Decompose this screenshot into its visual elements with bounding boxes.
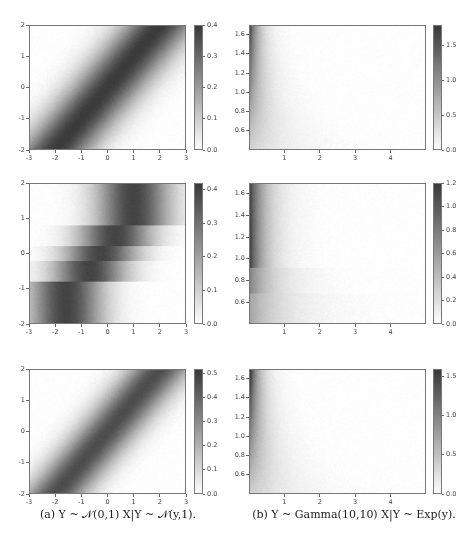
colorbar-tick-label: 0.2 <box>207 442 217 449</box>
colorbar-tick-label: 0.8 <box>446 227 456 234</box>
x-tick-label: 2 <box>152 155 168 162</box>
x-tick-mark <box>284 150 285 153</box>
colorbar-tick-label: 0.3 <box>207 53 217 60</box>
y-tick-label: 0.6 <box>225 471 245 478</box>
y-tick-mark <box>26 324 29 325</box>
y-tick-mark <box>26 494 29 495</box>
colorbar-tick-label: 0.5 <box>207 370 217 377</box>
colorbar-tick-mark <box>203 445 205 446</box>
x-tick-label: 2 <box>312 329 328 336</box>
x-tick-label: 2 <box>152 329 168 336</box>
y-tick-label: 1.0 <box>225 255 245 262</box>
x-tick-mark <box>107 494 108 497</box>
y-tick-label: 0.6 <box>225 127 245 134</box>
x-tick-label: 2 <box>312 155 328 162</box>
colorbar-tick-mark <box>442 454 444 455</box>
y-tick-label: 2 <box>5 22 25 29</box>
y-tick-mark <box>246 474 249 475</box>
colorbar-tick-mark <box>203 373 205 374</box>
colorbar-tick-mark <box>442 183 444 184</box>
y-tick-mark <box>26 183 29 184</box>
x-tick-label: 1 <box>276 155 292 162</box>
y-tick-mark <box>26 288 29 289</box>
x-tick-mark <box>133 324 134 327</box>
x-tick-mark <box>284 324 285 327</box>
x-tick-label: 0 <box>100 499 116 506</box>
y-tick-mark <box>26 87 29 88</box>
x-tick-label: -1 <box>73 499 89 506</box>
colorbar-tick-label: 0.4 <box>207 394 217 401</box>
heatmap-canvas <box>250 184 425 323</box>
colorbar-a3 <box>194 369 203 494</box>
x-tick-mark <box>55 324 56 327</box>
x-tick-mark <box>390 150 391 153</box>
x-tick-label: -2 <box>47 155 63 162</box>
colorbar-tick-label: 0.0 <box>207 321 217 328</box>
y-tick-mark <box>246 397 249 398</box>
heatmap-canvas <box>30 370 185 493</box>
y-tick-label: 1.4 <box>225 50 245 57</box>
x-tick-mark <box>159 324 160 327</box>
heatmap-canvas <box>250 26 425 149</box>
y-tick-label: -1 <box>5 285 25 292</box>
y-tick-mark <box>246 455 249 456</box>
colorbar-tick-label: 0.1 <box>207 466 217 473</box>
colorbar-tick-mark <box>203 189 205 190</box>
colorbar-tick-mark <box>203 290 205 291</box>
y-tick-label: 1.0 <box>225 433 245 440</box>
x-tick-label: -2 <box>47 499 63 506</box>
colorbar-tick-mark <box>442 150 444 151</box>
y-tick-mark <box>246 34 249 35</box>
heatmap-b3 <box>249 369 426 494</box>
y-tick-label: 2 <box>5 180 25 187</box>
y-tick-mark <box>26 253 29 254</box>
colorbar-tick-mark <box>442 415 444 416</box>
y-tick-mark <box>246 378 249 379</box>
colorbar-tick-label: 0.5 <box>446 112 456 119</box>
colorbar-tick-mark <box>442 324 444 325</box>
y-tick-label: 1 <box>5 215 25 222</box>
colorbar-tick-label: 0.2 <box>207 253 217 260</box>
x-tick-mark <box>355 324 356 327</box>
colorbar-tick-mark <box>442 253 444 254</box>
colorbar-tick-label: 0.0 <box>207 491 217 498</box>
x-tick-label: -2 <box>47 329 63 336</box>
x-tick-mark <box>319 494 320 497</box>
colorbar-tick-label: 0.4 <box>207 22 217 29</box>
y-tick-label: 0 <box>5 84 25 91</box>
x-tick-mark <box>186 324 187 327</box>
x-tick-label: 4 <box>383 155 399 162</box>
colorbar-tick-label: 0.0 <box>207 147 217 154</box>
colorbar-tick-mark <box>442 376 444 377</box>
colorbar-tick-label: 1.0 <box>446 412 456 419</box>
x-tick-label: 0 <box>100 329 116 336</box>
x-tick-label: 3 <box>347 499 363 506</box>
y-tick-label: 1.2 <box>225 414 245 421</box>
colorbar-tick-label: 1.5 <box>446 42 456 49</box>
heatmap-a3 <box>29 369 186 494</box>
x-tick-mark <box>390 324 391 327</box>
x-tick-mark <box>186 494 187 497</box>
colorbar-tick-mark <box>203 223 205 224</box>
x-tick-mark <box>355 150 356 153</box>
x-tick-mark <box>159 494 160 497</box>
colorbar-a2 <box>194 183 203 324</box>
x-tick-mark <box>107 150 108 153</box>
x-tick-label: 3 <box>178 329 194 336</box>
y-tick-label: 0.8 <box>225 452 245 459</box>
x-tick-mark <box>81 324 82 327</box>
y-tick-mark <box>246 258 249 259</box>
colorbar-tick-label: 1.5 <box>446 373 456 380</box>
y-tick-label: 1.6 <box>225 31 245 38</box>
y-tick-mark <box>246 215 249 216</box>
y-tick-mark <box>26 56 29 57</box>
x-tick-mark <box>81 150 82 153</box>
heatmap-b2 <box>249 183 426 324</box>
y-tick-label: 1 <box>5 53 25 60</box>
y-tick-label: 1.6 <box>225 190 245 197</box>
colorbar-gradient <box>195 184 202 323</box>
x-tick-mark <box>55 494 56 497</box>
y-tick-mark <box>246 73 249 74</box>
colorbar-tick-mark <box>203 494 205 495</box>
x-tick-mark <box>81 494 82 497</box>
